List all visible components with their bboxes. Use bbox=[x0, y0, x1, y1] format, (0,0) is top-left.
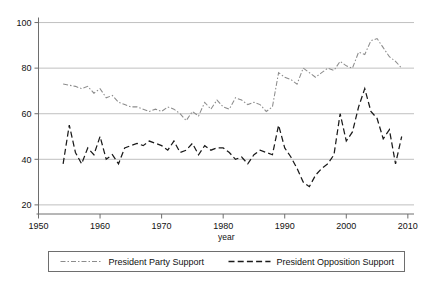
legend-label-president-opposition-support: President Opposition Support bbox=[277, 257, 395, 267]
x-tick-label-1980: 1980 bbox=[213, 221, 233, 231]
x-axis-title-label: year bbox=[218, 232, 235, 242]
axis-lines bbox=[37, 18, 415, 217]
chart-canvas: 20406080100 1950196019701980199020002010… bbox=[0, 0, 424, 291]
x-tick-label-1990: 1990 bbox=[275, 221, 295, 231]
legend-label-president-party-support: President Party Support bbox=[109, 257, 205, 267]
series-line-president-party-support bbox=[63, 39, 402, 121]
chart-legend: President Party SupportPresident Opposit… bbox=[49, 252, 405, 272]
y-tick-label-80: 80 bbox=[21, 63, 31, 73]
y-tick-label-20: 20 bbox=[21, 200, 31, 210]
data-series-group bbox=[63, 39, 402, 187]
x-tick-label-1960: 1960 bbox=[90, 221, 110, 231]
y-tick-label-40: 40 bbox=[21, 155, 31, 165]
time-series-chart: 20406080100 1950196019701980199020002010… bbox=[0, 0, 424, 291]
x-axis-ticks: 1950196019701980199020002010 bbox=[28, 214, 417, 231]
y-axis-ticks: 20406080100 bbox=[16, 18, 38, 210]
x-tick-label-1950: 1950 bbox=[28, 221, 48, 231]
y-tick-label-60: 60 bbox=[21, 109, 31, 119]
x-axis-title: year bbox=[218, 232, 235, 242]
x-tick-label-2010: 2010 bbox=[398, 221, 418, 231]
x-tick-label-1970: 1970 bbox=[152, 221, 172, 231]
x-tick-label-2000: 2000 bbox=[336, 221, 356, 231]
chart-screenshot: 20406080100 1950196019701980199020002010… bbox=[0, 0, 424, 291]
gridlines bbox=[39, 23, 415, 205]
y-tick-label-100: 100 bbox=[16, 18, 31, 28]
